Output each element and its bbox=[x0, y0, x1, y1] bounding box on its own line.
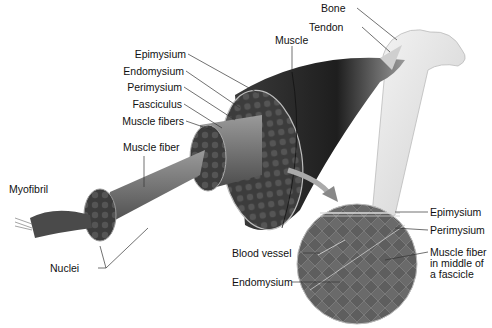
label-myofibril: Myofibril bbox=[9, 183, 48, 195]
muscle-structure-diagram: Epimysium Endomysium Perimysium Fascicul… bbox=[0, 0, 492, 328]
label-muscle-fiber: Muscle fiber bbox=[123, 141, 180, 153]
label-muscle-fibers: Muscle fibers bbox=[100, 115, 184, 127]
micro-label-muscle-fiber-fascicle: Muscle fiber in middle of a fascicle bbox=[430, 247, 492, 280]
label-perimysium: Perimysium bbox=[112, 81, 182, 93]
muscle-fiber-shape bbox=[84, 150, 205, 241]
micro-label-blood-vessel: Blood vessel bbox=[232, 247, 292, 259]
label-bone: Bone bbox=[321, 2, 346, 14]
label-tendon: Tendon bbox=[309, 21, 343, 33]
micro-label-epimysium: Epimysium bbox=[430, 206, 481, 218]
micro-label-endomysium: Endomysium bbox=[232, 276, 293, 288]
myofibril-shape bbox=[15, 211, 92, 238]
label-endomysium: Endomysium bbox=[106, 65, 184, 77]
label-muscle: Muscle bbox=[275, 34, 308, 46]
label-epimysium: Epimysium bbox=[116, 48, 186, 60]
label-fasciculus: Fasciculus bbox=[112, 98, 182, 110]
micrograph bbox=[297, 204, 417, 324]
label-nuclei: Nuclei bbox=[50, 262, 79, 274]
micro-label-perimysium: Perimysium bbox=[430, 224, 485, 236]
